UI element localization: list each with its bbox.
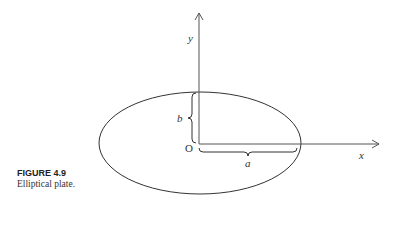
figure-caption-title: FIGURE 4.9 [17,168,66,178]
semi-axis-b-label: b [177,112,183,124]
semi-axis-a-label: a [245,157,251,169]
origin-label: O [185,142,193,154]
brace-a [199,148,297,156]
ellipse-plate [99,92,301,194]
figure-caption-text: Elliptical plate. [17,179,75,189]
y-axis-label: y [187,32,193,44]
x-axis-label: x [358,149,364,161]
brace-b [188,93,196,143]
